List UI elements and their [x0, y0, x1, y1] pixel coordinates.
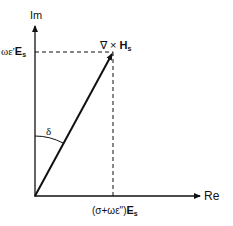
- phasor-diagram-canvas: [0, 0, 233, 226]
- re-axis-label: Re: [204, 190, 219, 202]
- curl-h-label: ∇ × Hs: [100, 40, 131, 52]
- delta-angle-label: δ: [46, 126, 51, 137]
- re-component-label: (σ+ωε")Es: [92, 205, 138, 217]
- im-axis-label: Im: [30, 10, 42, 21]
- delta-angle-arc: [35, 136, 63, 143]
- im-component-label: ωε'Es: [1, 46, 26, 58]
